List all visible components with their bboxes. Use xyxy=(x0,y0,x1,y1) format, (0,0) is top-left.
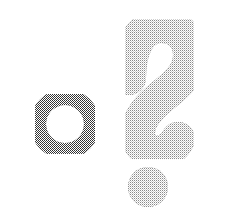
question-mark-artwork xyxy=(0,0,229,215)
dot-dither-texture xyxy=(128,167,168,207)
question-mark-dot-shape xyxy=(128,167,168,207)
image-canvas xyxy=(0,0,229,215)
